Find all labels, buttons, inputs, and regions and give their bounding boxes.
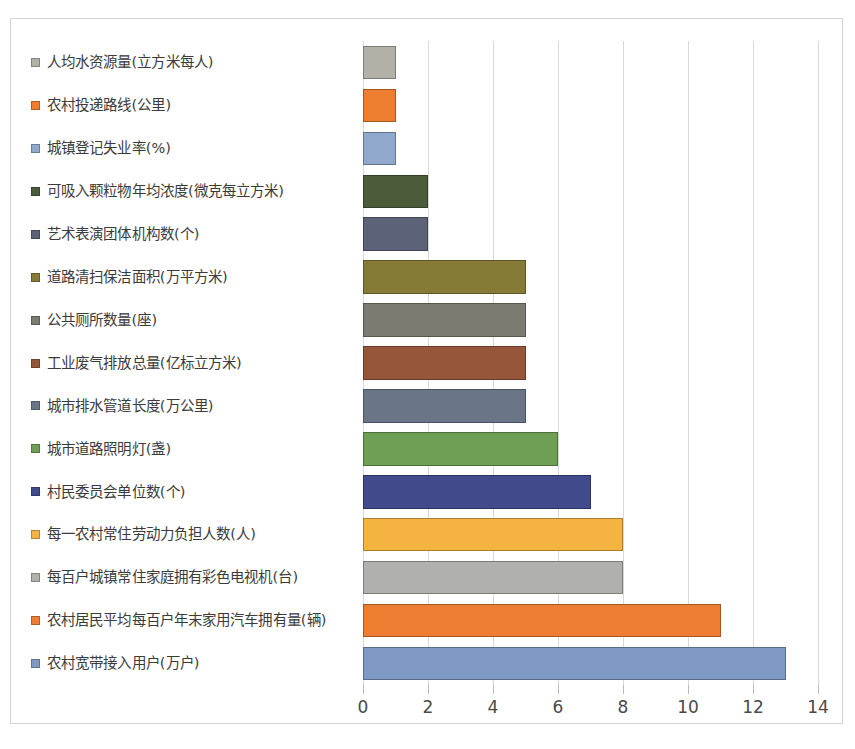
bar-row [363, 46, 829, 79]
bar-row [363, 475, 829, 508]
legend-label: 人均水资源量(立方米每人) [47, 55, 214, 70]
x-tick-label: 12 [742, 697, 764, 717]
x-tick-mark [558, 685, 559, 694]
bar-row [363, 389, 829, 422]
legend-swatch-icon [31, 530, 40, 539]
legend-item[interactable]: 每一农村常住劳动力负担人数(人) [31, 525, 256, 545]
legend-label: 每一农村常住劳动力负担人数(人) [47, 527, 256, 542]
legend-label: 村民委员会单位数(个) [47, 485, 185, 500]
legend-swatch-icon [31, 144, 40, 153]
x-tick-mark [623, 685, 624, 694]
legend-swatch-icon [31, 316, 40, 325]
bar-row [363, 175, 829, 208]
x-tick-mark [363, 685, 364, 694]
legend-item[interactable]: 城镇登记失业率(%) [31, 138, 171, 158]
legend-swatch-icon [31, 273, 40, 282]
legend-item[interactable]: 人均水资源量(立方米每人) [31, 52, 214, 72]
x-tick-label: 2 [423, 697, 434, 717]
legend-item[interactable]: 艺术表演团体机构数(个) [31, 224, 200, 244]
legend-label: 城市道路照明灯(盏) [47, 442, 171, 457]
bar[interactable] [363, 475, 591, 508]
bar-series [363, 41, 829, 685]
bar-row [363, 561, 829, 594]
legend-label: 道路清扫保洁面积(万平方米) [47, 270, 228, 285]
bar-row [363, 604, 829, 637]
legend-item[interactable]: 农村居民平均每百户年末家用汽车拥有量(辆) [31, 611, 326, 631]
chart-legend: 人均水资源量(立方米每人)农村投递路线(公里)城镇登记失业率(%)可吸入颗粒物年… [31, 41, 361, 685]
x-tick-mark [688, 685, 689, 694]
x-tick-label: 4 [488, 697, 499, 717]
legend-swatch-icon [31, 616, 40, 625]
bar[interactable] [363, 303, 526, 336]
legend-item[interactable]: 每百户城镇常住家庭拥有彩色电视机(台) [31, 568, 298, 588]
bar[interactable] [363, 604, 721, 637]
bar[interactable] [363, 132, 396, 165]
bar[interactable] [363, 432, 558, 465]
legend-swatch-icon [31, 487, 40, 496]
bar-row [363, 432, 829, 465]
legend-label: 公共厕所数量(座) [47, 313, 157, 328]
legend-item[interactable]: 城市排水管道长度(万公里) [31, 396, 214, 416]
x-tick-label: 6 [553, 697, 564, 717]
bar[interactable] [363, 217, 428, 250]
bar[interactable] [363, 46, 396, 79]
x-tick-mark [818, 685, 819, 694]
legend-item[interactable]: 公共厕所数量(座) [31, 310, 157, 330]
bar-row [363, 303, 829, 336]
bar[interactable] [363, 561, 623, 594]
x-tick-mark [493, 685, 494, 694]
legend-label: 城市排水管道长度(万公里) [47, 399, 214, 414]
bar-row [363, 346, 829, 379]
bar[interactable] [363, 647, 786, 680]
x-tick-label: 10 [677, 697, 699, 717]
plot-area [363, 41, 829, 685]
bar-row [363, 518, 829, 551]
x-tick-label: 14 [807, 697, 829, 717]
legend-label: 每百户城镇常住家庭拥有彩色电视机(台) [47, 570, 298, 585]
bar[interactable] [363, 389, 526, 422]
legend-label: 农村居民平均每百户年末家用汽车拥有量(辆) [47, 613, 326, 628]
legend-swatch-icon [31, 573, 40, 582]
legend-swatch-icon [31, 101, 40, 110]
legend-swatch-icon [31, 359, 40, 368]
legend-label: 艺术表演团体机构数(个) [47, 227, 200, 242]
legend-item[interactable]: 农村投递路线(公里) [31, 95, 171, 115]
x-tick-label: 8 [618, 697, 629, 717]
legend-swatch-icon [31, 659, 40, 668]
legend-swatch-icon [31, 187, 40, 196]
legend-item[interactable]: 道路清扫保洁面积(万平方米) [31, 267, 228, 287]
bar[interactable] [363, 346, 526, 379]
bar-row [363, 217, 829, 250]
bar[interactable] [363, 518, 623, 551]
chart-container: 人均水资源量(立方米每人)农村投递路线(公里)城镇登记失业率(%)可吸入颗粒物年… [10, 18, 843, 724]
legend-swatch-icon [31, 58, 40, 67]
bar-row [363, 89, 829, 122]
bar[interactable] [363, 260, 526, 293]
bar-row [363, 132, 829, 165]
x-tick-label: 0 [358, 697, 369, 717]
legend-item[interactable]: 工业废气排放总量(亿标立方米) [31, 353, 242, 373]
legend-label: 城镇登记失业率(%) [47, 141, 171, 156]
legend-label: 农村宽带接入用户(万户) [47, 656, 200, 671]
x-tick-mark [428, 685, 429, 694]
legend-swatch-icon [31, 401, 40, 410]
x-tick-mark [753, 685, 754, 694]
bar-row [363, 260, 829, 293]
legend-item[interactable]: 城市道路照明灯(盏) [31, 439, 171, 459]
bar-row [363, 647, 829, 680]
bar[interactable] [363, 175, 428, 208]
legend-item[interactable]: 可吸入颗粒物年均浓度(微克每立方米) [31, 181, 284, 201]
legend-item[interactable]: 农村宽带接入用户(万户) [31, 654, 200, 674]
x-axis: 02468101214 [363, 685, 829, 725]
legend-item[interactable]: 村民委员会单位数(个) [31, 482, 185, 502]
bar[interactable] [363, 89, 396, 122]
legend-label: 可吸入颗粒物年均浓度(微克每立方米) [47, 184, 284, 199]
legend-label: 工业废气排放总量(亿标立方米) [47, 356, 242, 371]
legend-swatch-icon [31, 444, 40, 453]
legend-label: 农村投递路线(公里) [47, 98, 171, 113]
legend-swatch-icon [31, 230, 40, 239]
